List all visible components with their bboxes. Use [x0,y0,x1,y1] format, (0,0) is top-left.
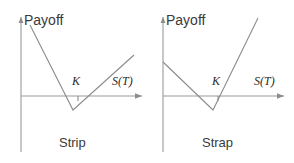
strap-x-axis-arrow-icon [277,93,284,98]
strip-x-axis-label: S(T) [112,75,133,87]
strip-x-axis-arrow-icon [135,93,142,98]
strip-y-axis-arrow-icon [19,17,24,23]
strap-strike-label: K [212,75,220,87]
strip-payoff-curve [30,25,134,110]
strip-strike-label: K [72,75,80,87]
payoff-diagram-figure: Payoff K S(T) Strip Payoff K S(T) Strap [0,0,294,163]
strap-y-axis-label: Payoff [166,13,205,27]
strap-y-axis-arrow-icon [161,17,166,23]
strip-caption: Strip [59,136,86,149]
strip-y-axis-label: Payoff [24,13,63,27]
strap-x-axis-label: S(T) [254,75,275,87]
strap-caption: Strap [202,136,233,149]
